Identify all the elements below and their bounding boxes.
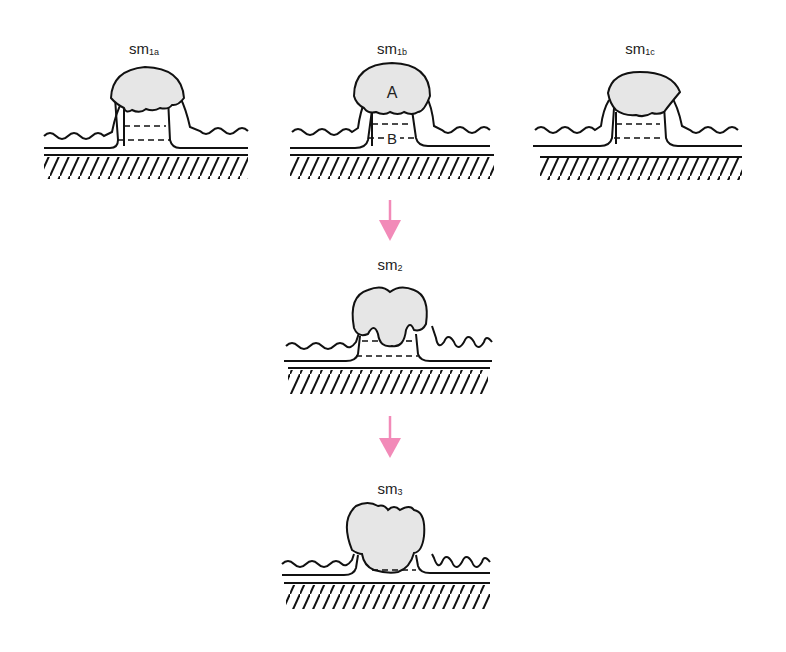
arrow-down-icon [379, 416, 401, 458]
diagram-canvas: A B [0, 0, 786, 652]
domain-label-b: B [387, 130, 397, 147]
diagram-sm3 [282, 503, 490, 609]
diagram-sm1b: A B [290, 63, 494, 179]
arrow-down-icon [379, 200, 401, 241]
diagram-sm1a [44, 67, 248, 179]
diagram-sm2 [284, 287, 492, 394]
domain-label-a: A [387, 84, 398, 101]
diagram-sm1c [533, 72, 742, 180]
